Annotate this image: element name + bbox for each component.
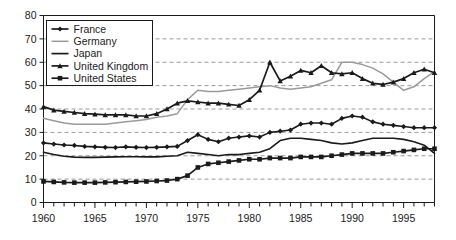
data-point-0-17 — [216, 139, 221, 144]
data-point-4-37 — [422, 146, 427, 151]
data-point-4-3 — [72, 180, 77, 185]
data-point-4-25 — [298, 155, 303, 160]
data-point-4-26 — [309, 155, 314, 160]
data-point-0-30 — [350, 113, 355, 118]
y-tick-label-50: 50 — [25, 79, 37, 91]
data-point-0-31 — [360, 115, 365, 120]
x-tick-label-1985: 1985 — [289, 212, 313, 224]
legend-label: Germany — [74, 35, 118, 47]
y-tick-label-60: 60 — [25, 56, 37, 68]
data-point-4-18 — [226, 159, 231, 164]
data-point-0-5 — [92, 144, 97, 149]
data-point-0-37 — [422, 125, 427, 130]
x-tick-label-1960: 1960 — [32, 212, 56, 224]
data-point-4-21 — [257, 157, 262, 162]
data-point-0-36 — [411, 125, 416, 130]
data-point-4-4 — [82, 180, 87, 185]
data-point-4-28 — [329, 153, 334, 158]
data-point-0-12 — [164, 144, 169, 149]
data-point-4-22 — [268, 156, 273, 161]
data-point-0-26 — [308, 120, 313, 125]
data-point-4-2 — [62, 180, 67, 185]
data-point-4-12 — [165, 178, 170, 183]
x-tick-label-1970: 1970 — [135, 212, 159, 224]
data-point-0-16 — [206, 137, 211, 142]
data-point-4-34 — [391, 150, 396, 155]
data-point-0-35 — [401, 124, 406, 129]
data-point-4-10 — [144, 179, 149, 184]
data-point-4-27 — [319, 155, 324, 160]
x-axis: 19601965197019751980198519901995 — [32, 203, 435, 224]
data-point-4-23 — [278, 156, 283, 161]
data-point-4-7 — [113, 180, 118, 185]
data-point-4-17 — [216, 160, 221, 165]
line-chart: 0102030405060708019601965197019751980198… — [0, 0, 456, 240]
x-tick-label-1980: 1980 — [238, 212, 262, 224]
y-tick-label-80: 80 — [25, 9, 37, 21]
y-tick-label-40: 40 — [25, 103, 37, 115]
data-point-0-2 — [61, 142, 66, 147]
y-tick-label-20: 20 — [25, 150, 37, 162]
data-point-4-1 — [51, 180, 56, 185]
data-point-4-24 — [288, 156, 293, 161]
data-point-0-7 — [113, 145, 118, 150]
data-point-0-1 — [51, 141, 56, 146]
data-point-4-29 — [340, 152, 345, 157]
data-point-4-14 — [185, 173, 190, 178]
data-point-4-33 — [381, 151, 386, 156]
data-point-3-21 — [257, 88, 262, 93]
data-point-4-20 — [247, 157, 252, 162]
data-point-0-11 — [154, 145, 159, 150]
data-point-4-5 — [93, 180, 98, 185]
data-point-4-0 — [41, 179, 46, 184]
y-tick-label-0: 0 — [31, 196, 37, 208]
data-point-0-0 — [41, 140, 46, 145]
y-tick-label-30: 30 — [25, 126, 37, 138]
data-point-4-9 — [134, 179, 139, 184]
data-point-4-38 — [432, 146, 437, 151]
data-point-4-11 — [154, 179, 159, 184]
data-point-0-4 — [82, 144, 87, 149]
data-point-0-22 — [267, 130, 272, 135]
y-tick-label-70: 70 — [25, 33, 37, 45]
data-point-4-6 — [103, 180, 108, 185]
legend-label: France — [74, 23, 107, 35]
legend: FranceGermanyJapanUnited KingdomUnited S… — [47, 21, 153, 86]
data-point-0-3 — [72, 143, 77, 148]
data-point-0-27 — [319, 120, 324, 125]
data-point-0-9 — [134, 145, 139, 150]
data-point-0-19 — [236, 134, 241, 139]
x-tick-label-1965: 1965 — [83, 212, 107, 224]
y-axis: 01020304050607080 — [25, 9, 44, 208]
legend-label: United Kingdom — [74, 60, 149, 72]
data-point-0-38 — [432, 125, 437, 130]
data-point-0-21 — [257, 134, 262, 139]
data-point-0-20 — [247, 133, 252, 138]
data-point-4-31 — [360, 151, 365, 156]
chart-container: 0102030405060708019601965197019751980198… — [0, 0, 456, 240]
data-point-0-34 — [391, 123, 396, 128]
data-point-3-27 — [319, 63, 324, 68]
data-point-4-32 — [370, 151, 375, 156]
y-tick-label-10: 10 — [25, 173, 37, 185]
data-point-4-30 — [350, 151, 355, 156]
x-tick-label-1975: 1975 — [186, 212, 210, 224]
data-point-0-6 — [103, 145, 108, 150]
data-point-0-18 — [226, 136, 231, 141]
data-point-0-33 — [380, 122, 385, 127]
series-france — [41, 113, 437, 150]
data-point-4-13 — [175, 177, 180, 182]
data-point-4-35 — [401, 149, 406, 154]
data-point-0-32 — [370, 119, 375, 124]
legend-label: United States — [74, 72, 137, 84]
data-point-0-8 — [123, 144, 128, 149]
legend-label: Japan — [74, 47, 103, 59]
data-point-4-15 — [196, 165, 201, 170]
legend-swatch-marker — [58, 76, 63, 81]
data-point-4-19 — [237, 158, 242, 163]
x-tick-label-1995: 1995 — [392, 212, 416, 224]
data-point-0-23 — [278, 129, 283, 134]
data-point-0-10 — [144, 145, 149, 150]
series-line-0 — [44, 116, 435, 148]
data-point-4-36 — [412, 148, 417, 153]
